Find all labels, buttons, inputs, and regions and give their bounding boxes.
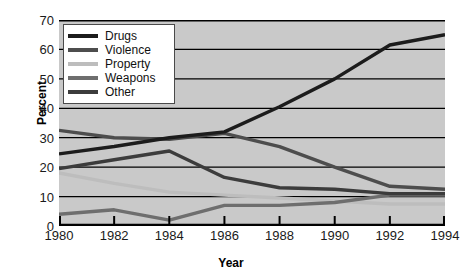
y-tick-label: 40 <box>14 102 54 115</box>
x-tick-label: 1992 <box>375 229 404 242</box>
series-line-property <box>59 173 445 204</box>
y-tick-label: 50 <box>14 73 54 86</box>
legend-item-violence: Violence <box>68 43 169 57</box>
legend-swatch-icon <box>68 34 98 38</box>
legend-item-other: Other <box>68 85 169 99</box>
y-tick-label: 70 <box>14 14 54 27</box>
legend-item-label: Weapons <box>105 72 155 84</box>
series-line-other <box>59 151 445 194</box>
x-tick-label: 1988 <box>265 229 294 242</box>
x-axis-title: Year <box>0 256 462 270</box>
legend-swatch-icon <box>68 76 98 80</box>
legend-item-label: Property <box>105 58 150 70</box>
y-tick-label: 30 <box>14 132 54 145</box>
x-tick-label: 1986 <box>210 229 239 242</box>
x-tick-label: 1982 <box>100 229 129 242</box>
x-axis-tick-labels: 19801982198419861988199019921994 <box>0 229 462 253</box>
legend-item-label: Violence <box>105 44 151 56</box>
x-tick-label: 1994 <box>431 229 460 242</box>
line-chart: Percent 010203040506070 1980198219841986… <box>0 0 462 276</box>
y-tick-label: 60 <box>14 43 54 56</box>
y-tick-label: 10 <box>14 191 54 204</box>
legend-swatch-icon <box>68 62 98 66</box>
legend-swatch-icon <box>68 90 98 94</box>
x-tick-label: 1980 <box>45 229 74 242</box>
x-tick-label: 1990 <box>320 229 349 242</box>
y-tick-label: 20 <box>14 161 54 174</box>
legend-item-property: Property <box>68 57 169 71</box>
legend-item-label: Other <box>105 86 135 98</box>
legend-item-drugs: Drugs <box>68 29 169 43</box>
x-tick-label: 1984 <box>155 229 184 242</box>
legend-item-weapons: Weapons <box>68 71 169 85</box>
legend-swatch-icon <box>68 48 98 52</box>
legend-item-label: Drugs <box>105 30 137 42</box>
chart-legend: DrugsViolencePropertyWeaponsOther <box>63 24 175 104</box>
series-line-weapons <box>59 195 445 220</box>
